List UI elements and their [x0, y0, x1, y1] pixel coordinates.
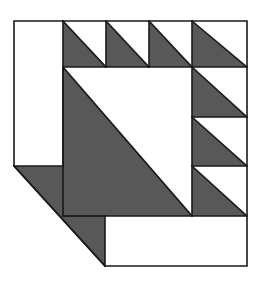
quilt-block-figure: [0, 0, 261, 286]
fills-layer: [14, 21, 247, 266]
left-white-panel: [14, 21, 63, 166]
bottom-white-bar: [105, 216, 247, 266]
quilt-block-canvas: [0, 0, 261, 286]
